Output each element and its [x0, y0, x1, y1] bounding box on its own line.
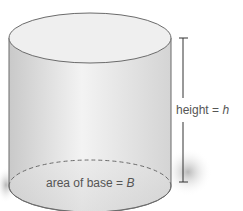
height-label: height = h [176, 103, 229, 117]
base-area-label: area of base = B [46, 176, 134, 190]
cylinder-diagram: height = h area of base = B [0, 0, 243, 211]
base-variable: B [126, 176, 134, 190]
cylinder-top-face [9, 13, 171, 63]
height-variable: h [222, 103, 229, 117]
